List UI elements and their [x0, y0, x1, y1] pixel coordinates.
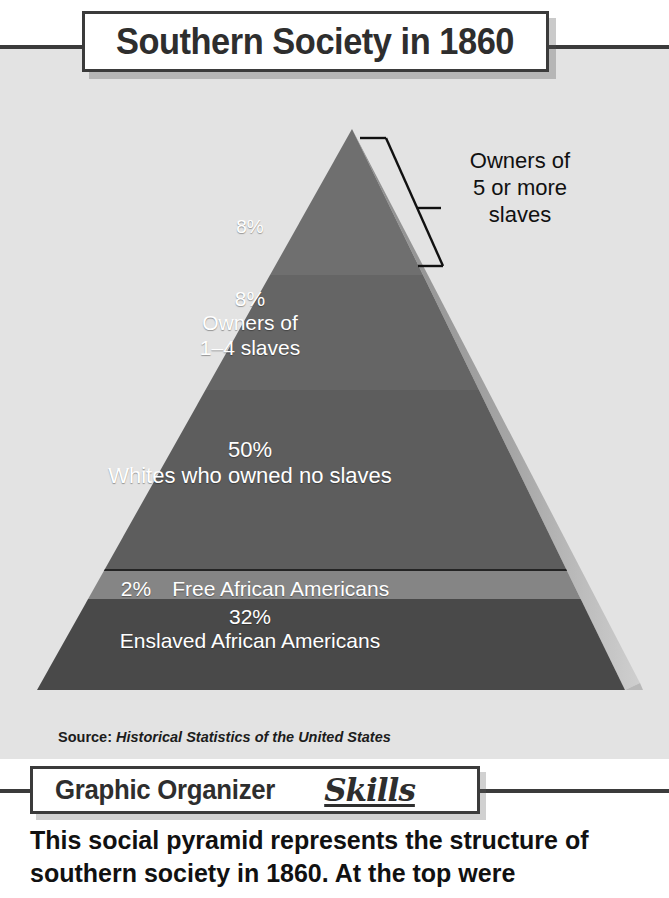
graphic-organizer-banner: Graphic Organizer Skills — [30, 766, 480, 814]
source-credit: Source: Historical Statistics of the Uni… — [58, 729, 391, 745]
source-title: Historical Statistics of the United Stat… — [116, 729, 391, 745]
callout-line-3: slaves — [420, 202, 620, 229]
callout-line-2: 5 or more — [420, 175, 620, 202]
banner-main-label: Graphic Organizer — [55, 774, 275, 806]
page-root: Southern Society in 1860 — [0, 0, 669, 898]
tier-4-inline: 2% Free African Americans — [0, 577, 510, 601]
tier-4-label: 2% Free African Americans — [0, 577, 510, 601]
tier-5-label: 32% Enslaved African Americans — [0, 605, 500, 654]
callout-line-1: Owners of — [420, 148, 620, 175]
tier-5-percent: 32% — [0, 605, 500, 629]
page-title: Southern Society in 1860 — [116, 21, 514, 63]
banner-skills-label: Skills — [324, 772, 415, 808]
tier-3-line1: Whites who owned no slaves — [0, 463, 500, 489]
tier-2-line1: Owners of — [0, 311, 500, 335]
callout-label: Owners of 5 or more slaves — [420, 148, 620, 228]
source-prefix: Source: — [58, 729, 112, 745]
title-box: Southern Society in 1860 — [82, 11, 549, 72]
tier-2-percent: 8% — [0, 287, 500, 311]
tier-2-label: 8% Owners of 1–4 slaves — [0, 287, 500, 360]
tier-3-percent: 50% — [0, 437, 500, 463]
body-paragraph: This social pyramid represents the struc… — [30, 824, 650, 890]
tier-2-line2: 1–4 slaves — [0, 336, 500, 360]
tier-5-line1: Enslaved African Americans — [0, 629, 500, 653]
tier-3-label: 50% Whites who owned no slaves — [0, 437, 500, 488]
